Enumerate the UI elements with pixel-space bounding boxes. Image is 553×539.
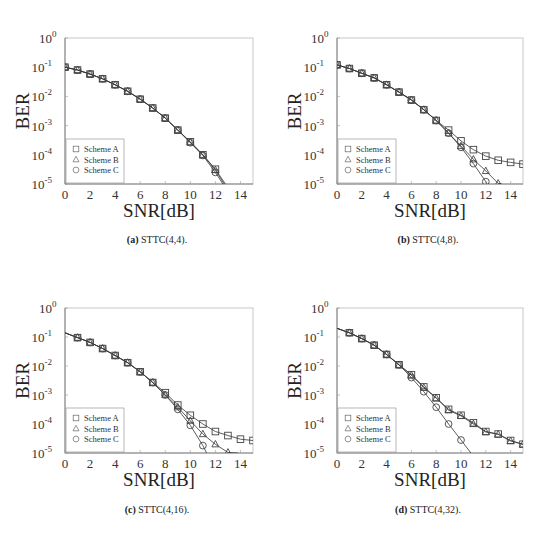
y-tick-label: 10-2: [304, 87, 325, 104]
x-tick-label: 12: [209, 187, 222, 202]
figure-caption: (d) STTC(4,32).: [395, 504, 461, 516]
x-tick-label: 12: [479, 456, 492, 471]
caption-label: (d): [395, 504, 407, 516]
x-tick-label: 14: [504, 187, 518, 202]
x-tick-label: 0: [334, 456, 341, 471]
legend: Scheme AScheme BScheme C: [66, 139, 124, 183]
y-tick-label: 10-1: [304, 328, 325, 345]
y-tick-label: 10-1: [32, 328, 53, 345]
x-tick-label: 0: [62, 456, 69, 471]
caption-text: STTC(4,8).: [410, 234, 459, 246]
x-tick-label: 2: [87, 456, 94, 471]
legend: Scheme AScheme BScheme C: [66, 408, 124, 452]
legend-label: Scheme C: [356, 434, 391, 444]
y-tick-label: 100: [39, 299, 57, 316]
x-tick-label: 0: [334, 187, 341, 202]
x-tick-label: 4: [383, 187, 390, 202]
chart-panel-a: 0246810121410010-110-210-310-410-5SNR[dB…: [12, 29, 253, 246]
x-tick-label: 14: [504, 456, 518, 471]
y-tick-label: 10-3: [304, 117, 325, 134]
y-tick-label: 10-2: [32, 87, 53, 104]
y-axis-label: BER: [284, 92, 305, 129]
caption-text: STTC(4,32).: [407, 504, 461, 516]
x-tick-label: 0: [62, 187, 69, 202]
legend: Scheme AScheme BScheme C: [338, 139, 396, 183]
figure-caption: (c) STTC(4,16).: [125, 504, 190, 516]
chart-panel-d: 0246810121410010-110-210-310-410-5SNR[dB…: [284, 299, 527, 516]
legend-label: Scheme A: [356, 413, 392, 423]
legend-label: Scheme A: [84, 413, 120, 423]
caption-label: (a): [127, 234, 139, 246]
y-tick-label: 10-4: [32, 415, 53, 432]
legend-label: Scheme C: [356, 165, 391, 175]
y-tick-label: 10-2: [32, 357, 53, 374]
caption-text: STTC(4,4).: [139, 234, 188, 246]
legend-label: Scheme C: [84, 165, 119, 175]
x-tick-label: 4: [112, 187, 119, 202]
caption-label: (b): [398, 234, 410, 246]
legend-label: Scheme B: [84, 424, 119, 434]
caption-label: (c): [125, 504, 136, 516]
y-tick-label: 10-4: [304, 146, 325, 163]
y-tick-label: 100: [311, 299, 329, 316]
y-tick-label: 10-5: [32, 444, 53, 461]
figure-caption: (b) STTC(4,8).: [398, 234, 459, 246]
x-axis-label: SNR[dB]: [394, 469, 466, 490]
y-tick-label: 100: [39, 29, 57, 46]
x-tick-label: 12: [209, 456, 222, 471]
figure: 0246810121410010-110-210-310-410-5SNR[dB…: [0, 0, 553, 539]
figure-caption: (a) STTC(4,4).: [127, 234, 187, 246]
x-axis-label: SNR[dB]: [123, 200, 195, 221]
x-tick-label: 14: [234, 456, 248, 471]
legend-label: Scheme B: [356, 424, 391, 434]
legend: Scheme AScheme BScheme C: [338, 408, 396, 452]
legend-label: Scheme A: [356, 144, 392, 154]
legend-label: Scheme C: [84, 434, 119, 444]
y-tick-label: 10-3: [304, 386, 325, 403]
x-axis-label: SNR[dB]: [394, 200, 466, 221]
y-tick-label: 10-5: [32, 175, 53, 192]
y-tick-label: 10-5: [304, 175, 325, 192]
x-tick-label: 4: [112, 456, 119, 471]
triangle-marker: [224, 449, 231, 455]
chart-panel-c: 0246810121410010-110-210-310-410-5SNR[dB…: [12, 299, 256, 516]
x-tick-label: 12: [479, 187, 492, 202]
y-tick-label: 10-1: [304, 58, 325, 75]
y-axis-label: BER: [284, 362, 305, 399]
x-axis-label: SNR[dB]: [123, 469, 195, 490]
legend-label: Scheme A: [84, 144, 120, 154]
y-tick-label: 10-3: [32, 117, 53, 134]
x-tick-label: 2: [359, 187, 366, 202]
x-tick-label: 2: [87, 187, 94, 202]
y-tick-label: 10-4: [32, 146, 53, 163]
y-tick-label: 10-2: [304, 357, 325, 374]
y-tick-label: 100: [311, 29, 329, 46]
x-tick-label: 14: [234, 187, 248, 202]
chart-panel-b: 0246810121410010-110-210-310-410-5SNR[dB…: [284, 29, 526, 246]
legend-label: Scheme B: [84, 155, 119, 165]
y-tick-label: 10-5: [304, 444, 325, 461]
y-axis-label: BER: [12, 362, 33, 399]
x-tick-label: 4: [383, 456, 390, 471]
y-axis-label: BER: [12, 92, 33, 129]
legend-label: Scheme B: [356, 155, 391, 165]
caption-text: STTC(4,16).: [136, 504, 190, 516]
y-tick-label: 10-4: [304, 415, 325, 432]
y-tick-label: 10-3: [32, 386, 53, 403]
y-tick-label: 10-1: [32, 58, 53, 75]
x-tick-label: 2: [359, 456, 366, 471]
